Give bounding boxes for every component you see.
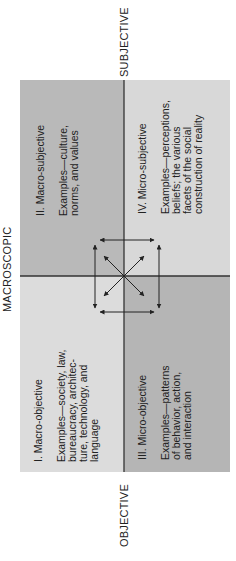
diagram-stage: MACROSCOPIC OBJECTIVE SUBJECTIVE I. Macr… — [0, 0, 236, 561]
axes-and-arrows — [0, 0, 236, 561]
